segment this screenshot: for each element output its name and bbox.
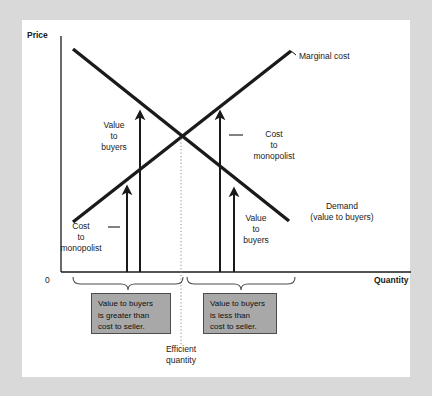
left-cost-line3: monopolist (54, 243, 108, 254)
x-axis-label: Quantity (374, 275, 408, 286)
callout-right-line2: is less than (210, 310, 271, 322)
demand-label-line2: (value to buyers) (296, 212, 388, 223)
y-axis-label: Price (27, 30, 48, 41)
annotation-right-value-to-buyers: Value to buyers (234, 213, 278, 246)
annotation-efficient-quantity: Efficient quantity (150, 344, 212, 366)
annotation-left-cost-to-monopolist: Cost to monopolist (54, 221, 108, 254)
right-value-line1: Value (234, 213, 278, 224)
left-value-line3: buyers (92, 142, 136, 153)
callout-left: Value to buyers is greater than cost to … (91, 293, 171, 334)
efficient-quantity-line2: quantity (150, 355, 212, 366)
right-cost-line3: monopolist (245, 151, 303, 162)
left-value-line1: Value (92, 120, 136, 131)
callout-left-line2: is greater than (98, 310, 165, 322)
origin-label: 0 (45, 275, 50, 286)
brace-right (187, 277, 295, 290)
marginal-cost-label: Marginal cost (299, 51, 350, 62)
left-value-line2: to (92, 131, 136, 142)
demand-label-line1: Demand (296, 201, 388, 212)
brace-left (73, 277, 183, 290)
callout-right-line3: cost to seller. (210, 321, 271, 333)
callout-left-line1: Value to buyers (98, 298, 165, 310)
right-value-line3: buyers (234, 235, 278, 246)
demand-label: Demand (value to buyers) (296, 201, 388, 223)
annotation-right-cost-to-monopolist: Cost to monopolist (245, 129, 303, 162)
left-cost-line1: Cost (54, 221, 108, 232)
right-cost-line2: to (245, 140, 303, 151)
plot-canvas (0, 0, 432, 396)
callout-left-line3: cost to seller. (98, 321, 165, 333)
efficient-quantity-line1: Efficient (150, 344, 212, 355)
callout-right: Value to buyers is less than cost to sel… (203, 293, 277, 334)
economics-diagram: Price Quantity 0 Marginal cost Demand (v… (0, 0, 432, 396)
leader-marginal-cost (291, 51, 296, 55)
right-value-line2: to (234, 224, 278, 235)
right-cost-line1: Cost (245, 129, 303, 140)
callout-right-line1: Value to buyers (210, 298, 271, 310)
left-cost-line2: to (54, 232, 108, 243)
annotation-left-value-to-buyers: Value to buyers (92, 120, 136, 153)
